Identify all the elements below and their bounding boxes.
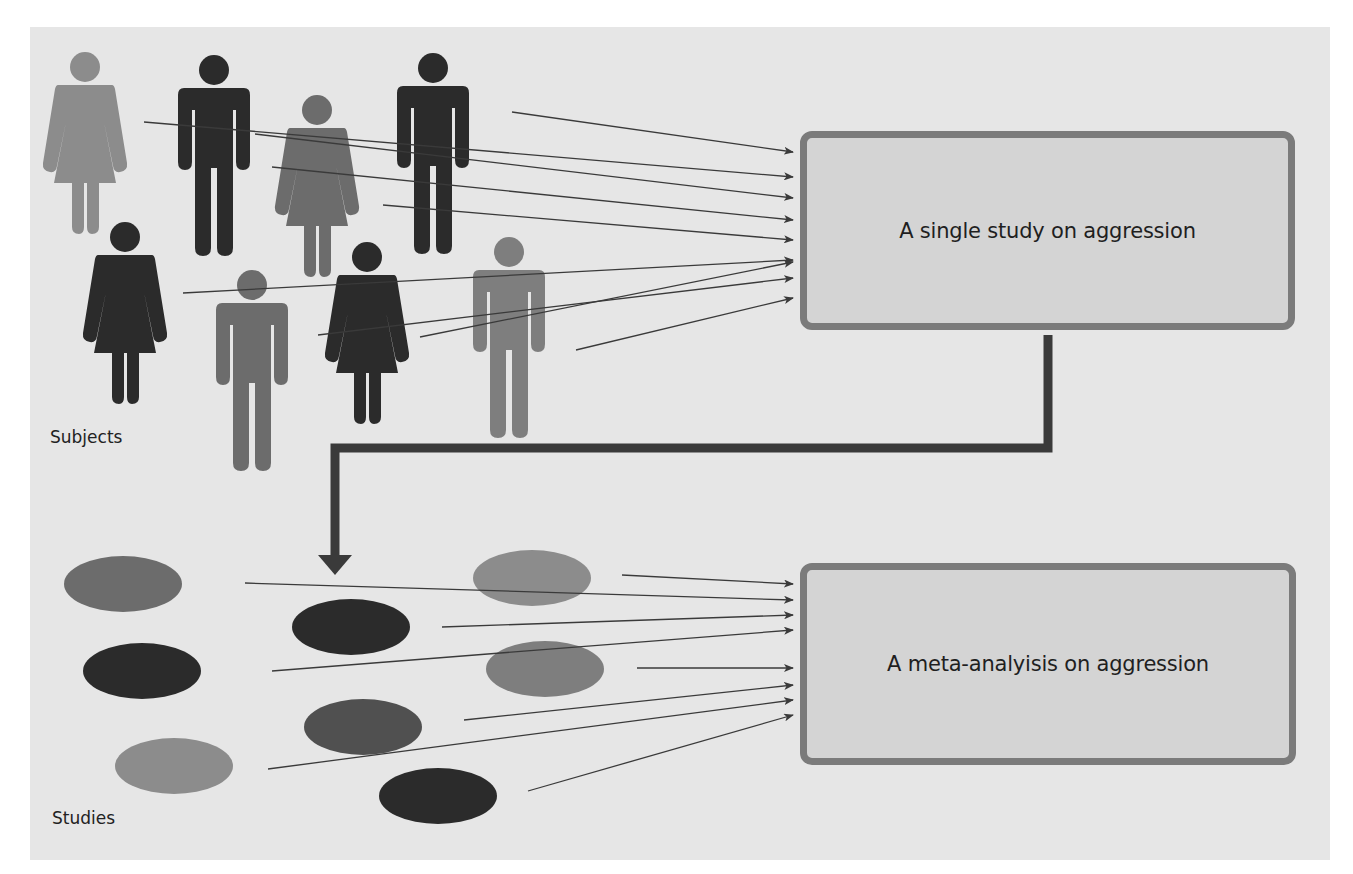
study-6 (304, 699, 422, 755)
study-3 (292, 599, 410, 655)
studies-caption: Studies (52, 808, 115, 828)
study-1 (64, 556, 182, 612)
subjects-caption: Subjects (50, 427, 122, 447)
subject-figure-8 (473, 237, 545, 438)
single-study-label: A single study on aggression (899, 219, 1196, 243)
meta-analysis-box: A meta-analyisis on aggression (800, 563, 1296, 765)
subject-figure-2 (178, 55, 250, 256)
study-7 (115, 738, 233, 794)
subject-figure-3 (275, 95, 359, 277)
study-8 (379, 768, 497, 824)
single-study-box: A single study on aggression (800, 131, 1295, 330)
study-2 (473, 550, 591, 606)
subject-figure-5 (83, 222, 167, 404)
study-4 (83, 643, 201, 699)
subject-figure-6 (216, 270, 288, 471)
subject-figure-1 (43, 52, 127, 234)
subject-figure-4 (397, 53, 469, 254)
meta-analysis-label: A meta-analyisis on aggression (887, 652, 1209, 676)
connector-arrow (318, 335, 1048, 575)
